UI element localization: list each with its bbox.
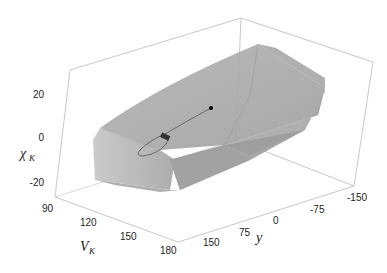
z-tick-20: 20 bbox=[33, 89, 45, 100]
x-tick-120: 120 bbox=[80, 217, 97, 228]
y-axis: 150 75 0 -75 -150 y bbox=[203, 192, 367, 248]
z-tick-0: 0 bbox=[38, 132, 44, 143]
y-tick-neg75: -75 bbox=[310, 204, 325, 215]
z-axis-label-sub: K bbox=[28, 153, 36, 163]
y-tick-75: 75 bbox=[239, 227, 251, 238]
x-axis: 90 120 150 180 V K bbox=[42, 203, 177, 256]
y-tick-150: 150 bbox=[203, 237, 220, 248]
y-tick-0: 0 bbox=[273, 215, 279, 226]
x-tick-150: 150 bbox=[120, 231, 137, 242]
3d-plot: 20 0 -20 χ K 90 120 150 180 V K 150 75 0… bbox=[0, 0, 387, 273]
z-axis: 20 0 -20 χ K bbox=[18, 89, 44, 188]
x-axis-label-sub: K bbox=[88, 246, 96, 256]
y-axis-label: y bbox=[254, 230, 263, 245]
x-tick-180: 180 bbox=[160, 245, 177, 256]
z-axis-label: χ bbox=[18, 146, 27, 161]
start-point-marker bbox=[209, 106, 213, 110]
x-tick-90: 90 bbox=[42, 203, 54, 214]
y-tick-neg150: -150 bbox=[347, 192, 367, 203]
reachable-set-volume bbox=[93, 44, 325, 192]
z-tick-neg20: -20 bbox=[30, 177, 45, 188]
